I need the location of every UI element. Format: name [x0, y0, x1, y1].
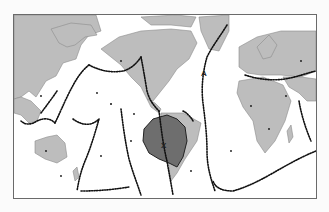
map-frame: A X — [13, 14, 317, 199]
map-label-x: X — [161, 142, 166, 150]
map-label-a: A — [201, 70, 207, 78]
world-map — [14, 15, 316, 198]
